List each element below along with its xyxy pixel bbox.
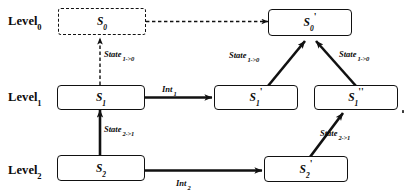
edge-label-state-1-0-middle: State1->0 [229,50,258,62]
edge-label-state-2-1-left: State2->1 [104,124,133,136]
node-s0-prime[interactable]: S0' [268,9,352,36]
edge-s1prime-to-s0prime [268,41,305,86]
edge-label-state-2-1-right: State2->1 [320,128,349,140]
level-label-2-sub: 2 [37,171,41,181]
level-label-2-text: Level [8,163,38,177]
level-label-1-sub: 1 [37,98,41,108]
level-label-1: Level1 [8,90,42,107]
node-s0-label: S0 [97,11,107,30]
node-s1-label: S1 [96,87,106,106]
node-s1-double-prime[interactable]: S1'' [314,85,398,110]
level-label-0-text: Level [8,14,38,28]
level-label-0-sub: 0 [37,22,41,32]
node-s0[interactable]: S0 [58,8,146,35]
node-s1-prime-label: S1' [250,87,263,106]
level-label-0: Level0 [8,14,42,31]
node-s2-prime[interactable]: S2' [264,156,348,182]
diagram-canvas: Level0 Level1 Level2 S0 S0' S1 S1' S1'' … [0,0,415,196]
edge-label-int-2: Int2 [176,178,189,190]
node-s2[interactable]: S2 [57,155,145,181]
edge-label-int-1: Int1 [162,84,175,96]
level-label-2: Level2 [8,163,42,180]
level-label-1-text: Level [8,90,38,104]
node-s2-prime-label: S2' [300,159,313,178]
edge-label-state-1-0-left: State1->0 [104,49,133,61]
node-s1[interactable]: S1 [57,85,145,110]
node-s1-double-prime-label: S1'' [348,87,364,106]
node-s0-prime-label: S0' [304,12,317,31]
node-s1-prime[interactable]: S1' [214,85,298,110]
stray-mark [402,110,404,113]
edge-s1pprime-to-s0prime [316,41,356,86]
node-s2-label: S2 [96,158,106,177]
edge-label-state-1-0-right: State1->0 [339,49,368,61]
